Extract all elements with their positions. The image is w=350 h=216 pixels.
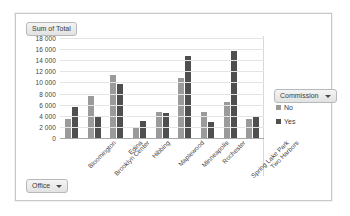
- legend-swatch-icon: [276, 105, 281, 110]
- legend-item[interactable]: No: [276, 104, 336, 111]
- bar-group: [105, 38, 128, 138]
- pivotchart-frame[interactable]: Sum of Total Office Commission 18 00016 …: [15, 13, 332, 201]
- bar-group: [241, 38, 264, 138]
- bar-no[interactable]: [178, 78, 184, 138]
- pivotchart-screen: Sum of Total Office Commission 18 00016 …: [0, 0, 350, 216]
- bar-no[interactable]: [133, 127, 139, 138]
- axis-field-button-label: Office: [32, 181, 50, 191]
- bar-yes[interactable]: [72, 107, 78, 138]
- gridline: [60, 94, 264, 95]
- bar-yes[interactable]: [117, 84, 123, 138]
- bar-group: [128, 38, 151, 138]
- bar-group: [196, 38, 219, 138]
- gridline: [60, 71, 264, 72]
- gridline: [60, 60, 264, 61]
- legend-field-button-commission[interactable]: Commission: [274, 89, 337, 103]
- bar-no[interactable]: [88, 96, 94, 138]
- y-axis-tick-label: 8 000: [39, 90, 56, 97]
- y-axis-tick-label: 6 000: [39, 101, 56, 108]
- x-axis-tick-label: Bloomington: [87, 139, 118, 170]
- y-axis-tick-label: 4 000: [39, 112, 56, 119]
- gridline: [60, 82, 264, 83]
- y-axis: 18 00016 00014 00012 00010 0008 0006 000…: [24, 38, 58, 138]
- bar-no[interactable]: [224, 102, 230, 138]
- value-field-button-label: Sum of Total: [32, 24, 71, 34]
- gridline: [60, 116, 264, 117]
- bar-group: [173, 38, 196, 138]
- y-axis-tick-label: 2 000: [39, 123, 56, 130]
- gridline: [60, 38, 264, 39]
- y-axis-tick-label: 18 000: [36, 35, 56, 42]
- x-axis-labels: BloomingtonBrooklyn CenterEdinaHibbingMa…: [60, 139, 264, 199]
- y-axis-tick-label: 0: [52, 135, 56, 142]
- legend-item-label: No: [284, 104, 293, 111]
- legend-swatch-icon: [276, 119, 281, 124]
- bar-group: [83, 38, 106, 138]
- bar-no[interactable]: [246, 119, 252, 138]
- bar-group: [151, 38, 174, 138]
- legend-item-label: Yes: [284, 118, 295, 125]
- bar-no[interactable]: [110, 75, 116, 138]
- bar-yes[interactable]: [140, 121, 146, 138]
- bar-group: [219, 38, 242, 138]
- legend-item[interactable]: Yes: [276, 118, 336, 125]
- legend-field-button-label: Commission: [280, 91, 319, 101]
- bar-yes[interactable]: [208, 122, 214, 138]
- plot-canvas: [60, 38, 264, 139]
- gridline: [60, 49, 264, 50]
- y-axis-tick-label: 16 000: [36, 46, 56, 53]
- gridline: [60, 127, 264, 128]
- chart-legend: NoYes: [276, 104, 336, 132]
- bar-yes[interactable]: [185, 56, 191, 138]
- bar-series-container: [60, 38, 264, 138]
- gridline: [60, 105, 264, 106]
- bar-group: [60, 38, 83, 138]
- bar-no[interactable]: [65, 119, 71, 138]
- plot-area: 18 00016 00014 00012 00010 0008 0006 000…: [24, 38, 264, 150]
- chevron-down-icon[interactable]: [325, 95, 331, 98]
- x-axis-tick-label: Hibbing: [151, 139, 172, 160]
- y-axis-tick-label: 14 000: [36, 57, 56, 64]
- y-axis-tick-label: 12 000: [36, 68, 56, 75]
- y-axis-tick-label: 10 000: [36, 79, 56, 86]
